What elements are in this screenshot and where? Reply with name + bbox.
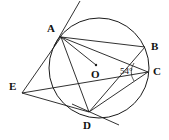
angle-measure-at-c: 54°: [120, 67, 133, 76]
point-label-d: D: [83, 120, 91, 131]
point-label-c: C: [153, 66, 161, 77]
center-point-dot: [95, 64, 97, 66]
geometry-figure: A B C D E O 54°: [0, 0, 169, 140]
segment-e-d: [22, 93, 89, 112]
point-label-b: B: [151, 41, 158, 52]
point-label-o: O: [91, 69, 100, 80]
point-label-e: E: [9, 81, 16, 92]
point-label-a: A: [47, 23, 55, 34]
segment-a-e: [22, 37, 61, 93]
